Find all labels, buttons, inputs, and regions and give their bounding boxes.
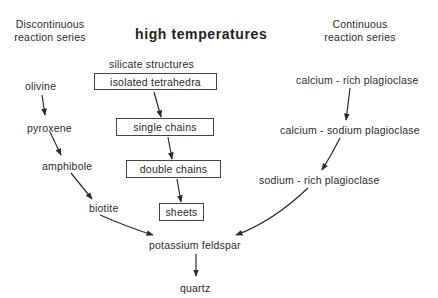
arrow-olivine-pyroxene <box>42 95 45 115</box>
arrow-narich-feldspar <box>236 188 308 235</box>
arrow-pyroxene-amphibole <box>50 132 61 155</box>
arrow-double-sheets <box>177 179 181 202</box>
arrow-caso-narich <box>322 138 340 170</box>
arrow-amphibole-biotite <box>71 173 92 199</box>
arrows-layer <box>0 0 438 298</box>
arrow-carich-caso <box>346 88 350 120</box>
arrow-biotite-feldspar <box>100 215 153 235</box>
arrow-tetrahedra-single <box>154 92 161 117</box>
arrow-single-double <box>168 137 172 159</box>
